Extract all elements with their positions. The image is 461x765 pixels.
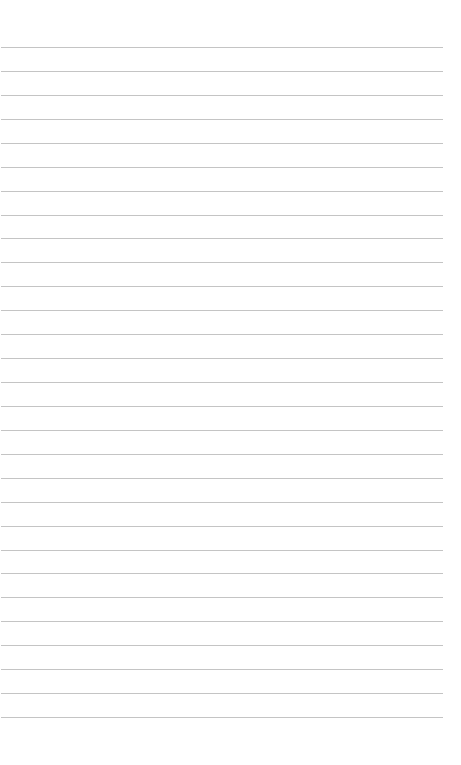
ruled-line [1,597,443,598]
ruled-line [1,454,443,455]
lined-paper-page [0,0,461,765]
ruled-line [1,167,443,168]
ruled-line [1,358,443,359]
ruled-line [1,669,443,670]
ruled-line [1,215,443,216]
ruled-line [1,406,443,407]
ruled-line [1,550,443,551]
ruled-line [1,478,443,479]
ruled-line [1,334,443,335]
ruled-line [1,71,443,72]
ruled-line [1,382,443,383]
ruled-line [1,573,443,574]
ruled-line [1,191,443,192]
ruled-line [1,430,443,431]
ruled-line [1,693,443,694]
ruled-line [1,310,443,311]
ruled-line [1,95,443,96]
ruled-line [1,717,443,718]
ruled-line [1,526,443,527]
ruled-line [1,143,443,144]
ruled-line [1,238,443,239]
ruled-line [1,645,443,646]
ruled-line [1,502,443,503]
ruled-line [1,286,443,287]
ruled-line [1,262,443,263]
ruled-line [1,47,443,48]
ruled-line [1,621,443,622]
ruled-line [1,119,443,120]
